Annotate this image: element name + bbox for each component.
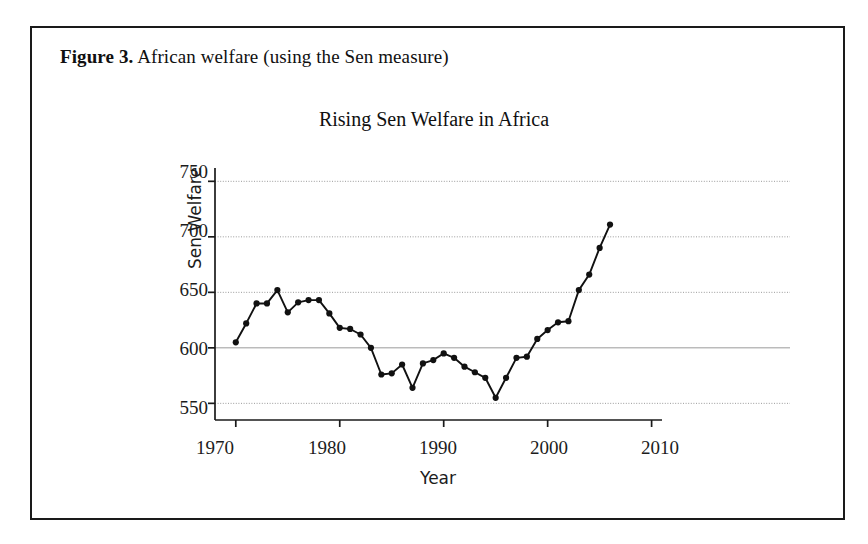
x-tick-label-1990: 1990 [398,437,478,459]
y-tick-label-550: 550 [146,397,208,419]
figure-caption-text: African welfare (using the Sen measure) [133,46,448,67]
y-tick-label-650: 650 [146,279,208,301]
y-tick-label-700: 700 [146,220,208,242]
y-tick-label-600: 600 [146,338,208,360]
x-axis-title: Year [215,468,661,488]
x-tick-label-2010: 2010 [620,437,700,459]
x-tick-label-1980: 1980 [287,437,367,459]
figure-caption: Figure 3. African welfare (using the Sen… [60,46,449,68]
x-tick-label-2000: 2000 [509,437,589,459]
figure-caption-label: Figure 3. [60,46,133,67]
y-tick-label-750: 750 [146,161,208,183]
x-tick-label-1970: 1970 [175,437,255,459]
chart-title: Rising Sen Welfare in Africa [0,108,868,131]
